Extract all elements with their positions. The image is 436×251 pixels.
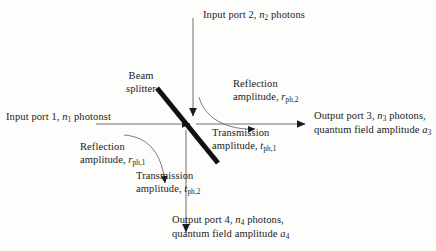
transmission-1-line2: amplitude, tph,1 bbox=[212, 140, 276, 154]
label-transmission-amplitude-2: Transmission amplitude, tph,2 bbox=[136, 170, 200, 196]
transmission-2-line1: Transmission bbox=[136, 170, 200, 183]
photon-number-n2: n2 bbox=[259, 9, 268, 20]
amplitude-prefix-r1: amplitude, bbox=[80, 154, 128, 165]
transmission-1-line1: Transmission bbox=[212, 127, 276, 140]
input-port-2-suffix: photons bbox=[268, 9, 305, 20]
input-port-2-prefix: Input port 2, bbox=[203, 9, 259, 20]
output-port-3-line2: quantum field amplitude a3 bbox=[314, 124, 431, 138]
transmission-symbol-t-ph-1: tph,1 bbox=[260, 140, 276, 151]
input-port-1-prefix: Input port 1, bbox=[6, 111, 62, 122]
label-input-port-2: Input port 2, n2 photons bbox=[203, 9, 305, 23]
reflection-symbol-r-ph-1: rph,1 bbox=[128, 154, 145, 165]
output-port-4-line1: Output port 4, n4 photons, bbox=[172, 214, 289, 228]
label-input-port-1: Input port 1, n1 photonst bbox=[6, 111, 111, 125]
reflection-symbol-r-ph-2: rph,2 bbox=[281, 91, 298, 102]
reflection-2-line2: amplitude, rph,2 bbox=[233, 91, 299, 105]
label-beam-splitter: Beam splitter bbox=[126, 70, 156, 95]
quantum-field-prefix-3: quantum field amplitude bbox=[314, 124, 422, 135]
output-port-3-line1: Output port 3, n3 photons, bbox=[314, 110, 431, 124]
label-transmission-amplitude-1: Transmission amplitude, tph,1 bbox=[212, 127, 276, 153]
field-amplitude-a3: a3 bbox=[422, 124, 431, 135]
amplitude-prefix-t1: amplitude, bbox=[212, 140, 260, 151]
output-port-4-prefix: Output port 4, bbox=[172, 214, 235, 225]
beam-splitter-diagram: Input port 2, n2 photons Input port 1, n… bbox=[0, 0, 436, 251]
beam-splitter-line1: Beam bbox=[126, 70, 156, 83]
label-output-port-4: Output port 4, n4 photons, quantum field… bbox=[172, 214, 289, 241]
amplitude-prefix-r2: amplitude, bbox=[233, 91, 281, 102]
beam-splitter-line2: splitter bbox=[126, 83, 156, 96]
transmission-symbol-t-ph-2: tph,2 bbox=[184, 183, 200, 194]
field-amplitude-a4: a4 bbox=[280, 228, 289, 239]
photon-number-n1: n1 bbox=[62, 111, 71, 122]
transmission-2-line2: amplitude, tph,2 bbox=[136, 183, 200, 197]
label-reflection-amplitude-2: Reflection amplitude, rph,2 bbox=[233, 78, 299, 104]
label-reflection-amplitude-1: Reflection amplitude, rph,1 bbox=[80, 141, 146, 167]
output-port-3-prefix: Output port 3, bbox=[314, 110, 377, 121]
output-port-4-line2: quantum field amplitude a4 bbox=[172, 228, 289, 242]
amplitude-prefix-t2: amplitude, bbox=[136, 183, 184, 194]
reflection-1-line1: Reflection bbox=[80, 141, 146, 154]
reflection-1-line2: amplitude, rph,1 bbox=[80, 154, 146, 168]
beam-splitter-line bbox=[157, 88, 218, 163]
output-port-4-suffix: photons, bbox=[244, 214, 283, 225]
input-port-1-suffix: photonst bbox=[71, 111, 111, 122]
quantum-field-prefix-4: quantum field amplitude bbox=[172, 228, 280, 239]
reflection-2-line1: Reflection bbox=[233, 78, 299, 91]
output-port-3-suffix: photons, bbox=[386, 110, 425, 121]
label-output-port-3: Output port 3, n3 photons, quantum field… bbox=[314, 110, 431, 137]
